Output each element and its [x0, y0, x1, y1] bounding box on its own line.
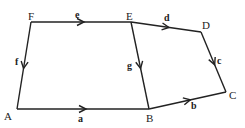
edge-f [17, 22, 31, 109]
edge-label-g: g [127, 61, 132, 71]
edge-label-c: c [217, 56, 221, 66]
edge-label-f: f [15, 57, 18, 67]
directed-graph-diagram: abcdefgABCDEF [0, 0, 245, 128]
node-label-F: F [28, 11, 34, 22]
edge-d [131, 22, 201, 32]
node-label-B: B [146, 113, 153, 124]
edge-g [131, 22, 149, 109]
node-label-D: D [202, 20, 210, 31]
edge-label-e: e [75, 10, 79, 20]
edge-label-b: b [191, 101, 197, 111]
edge-b [149, 92, 226, 109]
node-label-C: C [229, 90, 236, 101]
edge-c [201, 32, 226, 92]
edge-label-d: d [164, 13, 170, 23]
node-label-E: E [126, 11, 133, 22]
node-label-A: A [4, 111, 12, 122]
edge-label-a: a [78, 114, 83, 124]
